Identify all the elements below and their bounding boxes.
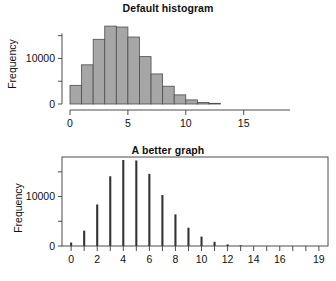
- y-tick-label-bottom: 10000: [26, 190, 55, 202]
- x-tick-label-bottom: 8: [173, 253, 179, 265]
- histogram-bar: [174, 95, 186, 104]
- histogram-plot: 010000051015: [0, 0, 336, 140]
- spike-series: [71, 160, 241, 246]
- histogram-bar: [82, 65, 94, 104]
- x-tick-label-bottom: 10: [196, 253, 208, 265]
- histogram-bar: [209, 103, 221, 104]
- plot-frame: [62, 157, 328, 246]
- y-tick-label-top: 10000: [26, 52, 55, 64]
- x-tick-label-bottom: 4: [120, 253, 126, 265]
- histogram-bars: [70, 26, 221, 104]
- histogram-bar: [105, 26, 117, 104]
- x-tick-label-top: 5: [125, 117, 131, 129]
- x-tick-label-bottom: 14: [248, 253, 260, 265]
- x-tick-label-top: 0: [67, 117, 73, 129]
- x-tick-label-top: 15: [238, 117, 250, 129]
- x-tick-label-bottom: 16: [274, 253, 286, 265]
- histogram-bar: [116, 27, 128, 104]
- histogram-bar: [186, 100, 198, 104]
- x-tick-label-bottom: 19: [313, 253, 325, 265]
- panel-default-histogram: Default histogram Frequency 010000051015: [0, 0, 336, 140]
- panel-better-graph: A better graph Frequency 010000024681012…: [0, 140, 336, 281]
- spike-plot: 010000024681012141619: [0, 140, 336, 281]
- x-tick-label-top: 10: [180, 117, 192, 129]
- histogram-bar: [163, 86, 175, 104]
- y-tick-label-top: 0: [49, 98, 55, 110]
- histogram-bar: [70, 85, 82, 104]
- x-tick-label-bottom: 12: [222, 253, 234, 265]
- histogram-bar: [139, 57, 151, 104]
- histogram-bar: [93, 39, 105, 104]
- histogram-bar: [128, 37, 140, 104]
- x-tick-label-bottom: 0: [68, 253, 74, 265]
- x-tick-label-bottom: 6: [146, 253, 152, 265]
- x-tick-label-bottom: 2: [94, 253, 100, 265]
- histogram-bar: [151, 74, 163, 104]
- y-tick-label-bottom: 0: [49, 240, 55, 252]
- histogram-bar: [197, 102, 209, 104]
